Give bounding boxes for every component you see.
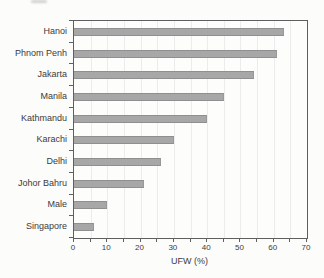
bar-delhi (74, 158, 161, 166)
x-axis-tick-label: 30 (168, 243, 177, 252)
y-axis-tick (69, 172, 73, 173)
y-axis-tick (69, 129, 73, 130)
y-axis-tick (69, 215, 73, 216)
x-axis-tick (173, 238, 174, 242)
x-axis-tick (273, 238, 274, 242)
x-axis-title: UFW (%) (73, 256, 306, 266)
x-axis-tick (256, 238, 257, 242)
x-axis-tick (206, 238, 207, 242)
category-label: Male (0, 199, 67, 209)
bar-johor-bahru (74, 180, 144, 188)
category-label: Delhi (0, 156, 67, 166)
y-axis-tick (69, 107, 73, 108)
category-label: Hanoi (0, 26, 67, 36)
x-axis-tick (123, 238, 124, 242)
x-axis-tick (306, 238, 307, 242)
y-axis-tick (69, 63, 73, 64)
category-label: Karachi (0, 134, 67, 144)
y-axis-tick (69, 85, 73, 86)
bar-phnom-penh (74, 50, 277, 58)
x-axis-tick-label: 20 (135, 243, 144, 252)
scanned-bar-chart-page: UFW (%) HanoiPhnom PenhJakartaManilaKath… (0, 0, 324, 278)
x-axis-tick (156, 238, 157, 242)
y-axis-tick (69, 150, 73, 151)
category-label: Singapore (0, 221, 67, 231)
x-axis-tick-label: 0 (71, 243, 75, 252)
x-axis-tick (140, 238, 141, 242)
x-axis-tick (190, 238, 191, 242)
bar-kathmandu (74, 115, 207, 123)
plot-area (73, 20, 308, 239)
x-axis-tick (106, 238, 107, 242)
bar-manila (74, 93, 224, 101)
category-label: Manila (0, 91, 67, 101)
x-axis-tick (239, 238, 240, 242)
x-axis-tick (73, 238, 74, 242)
x-axis-tick (289, 238, 290, 242)
y-axis-tick (69, 42, 73, 43)
bar-male (74, 201, 107, 209)
x-axis-tick-label: 10 (102, 243, 111, 252)
y-axis-tick (69, 194, 73, 195)
x-axis-tick-label: 40 (202, 243, 211, 252)
category-label: Kathmandu (0, 113, 67, 123)
bar-hanoi (74, 28, 284, 36)
x-axis-tick (90, 238, 91, 242)
bar-karachi (74, 136, 174, 144)
category-label: Phnom Penh (0, 48, 67, 58)
x-axis-tick-label: 70 (302, 243, 311, 252)
category-label: Johor Bahru (0, 178, 67, 188)
scan-artifact (31, 0, 47, 3)
bar-jakarta (74, 71, 254, 79)
x-axis-tick-label: 60 (268, 243, 277, 252)
x-axis-tick (223, 238, 224, 242)
gridline (290, 21, 291, 238)
x-axis-tick-label: 50 (235, 243, 244, 252)
bar-singapore (74, 223, 94, 231)
category-label: Jakarta (0, 69, 67, 79)
y-axis-tick (69, 20, 73, 21)
